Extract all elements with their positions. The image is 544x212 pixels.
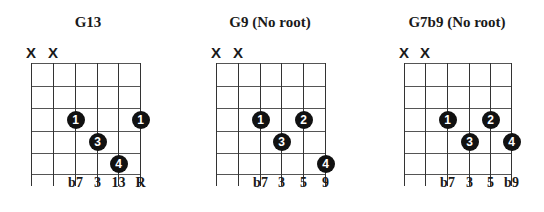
fret-line: [216, 131, 326, 132]
interval-label: 5: [487, 176, 494, 190]
finger-dot: 4: [503, 133, 521, 151]
interval-label: b7: [68, 176, 83, 190]
fret-line: [404, 86, 512, 87]
interval-label: b9: [504, 176, 519, 190]
finger-dot: 2: [295, 111, 313, 129]
fret-line: [216, 153, 326, 154]
interval-label: b7: [253, 176, 268, 190]
fret-line: [31, 108, 141, 109]
finger-dot: 1: [252, 111, 270, 129]
fret-line: [404, 108, 512, 109]
finger-dot: 1: [132, 111, 150, 129]
fret-line: [31, 153, 141, 154]
finger-dot: 4: [110, 155, 128, 173]
muted-string-marker: X: [48, 45, 58, 60]
muted-string-marker: X: [26, 45, 36, 60]
interval-label: 3: [94, 176, 101, 190]
muted-string-marker: X: [211, 45, 221, 60]
finger-dot: 2: [482, 111, 500, 129]
fret-line: [31, 86, 141, 87]
string-line: [216, 63, 217, 186]
interval-label: b7: [440, 176, 455, 190]
fret-line: [404, 174, 512, 175]
finger-dot: 4: [317, 155, 335, 173]
fret-line: [31, 63, 141, 64]
fret-line: [404, 153, 512, 154]
interval-label: 3: [278, 176, 285, 190]
finger-dot: 3: [273, 133, 291, 151]
interval-label: 3: [466, 176, 473, 190]
fret-line: [404, 131, 512, 132]
string-line: [53, 63, 54, 186]
fret-line: [216, 174, 326, 175]
finger-dot: 1: [439, 111, 457, 129]
fret-line: [216, 63, 326, 64]
finger-dot: 1: [67, 111, 85, 129]
chord-title: G9 (No root): [170, 14, 370, 31]
string-line: [469, 63, 470, 186]
fret-line: [216, 108, 326, 109]
interval-label: 9: [322, 176, 329, 190]
fret-line: [31, 131, 141, 132]
fret-line: [216, 86, 326, 87]
muted-string-marker: X: [420, 45, 430, 60]
string-line: [404, 63, 405, 186]
string-line: [425, 63, 426, 186]
string-line: [511, 63, 512, 186]
string-line: [31, 63, 32, 186]
muted-string-marker: X: [233, 45, 243, 60]
muted-string-marker: X: [399, 45, 409, 60]
string-line: [281, 63, 282, 186]
interval-label: R: [135, 176, 145, 190]
chord-title: G7b9 (No root): [357, 14, 544, 31]
finger-dot: 3: [89, 133, 107, 151]
interval-label: 13: [112, 176, 126, 190]
chord-title: G13: [0, 14, 188, 31]
string-line: [97, 63, 98, 186]
interval-label: 5: [300, 176, 307, 190]
fret-line: [404, 63, 512, 64]
finger-dot: 3: [461, 133, 479, 151]
string-line: [238, 63, 239, 186]
